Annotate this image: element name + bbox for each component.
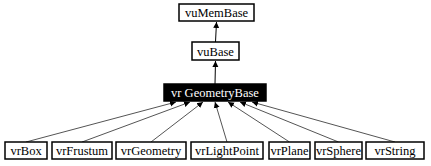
node-label: vrLightPoint xyxy=(195,144,259,158)
edge-vuBase-to-vuMemBase xyxy=(216,22,217,42)
node-label: vuMemBase xyxy=(185,6,249,20)
node-label: vrString xyxy=(375,144,417,158)
edge-vrPlane-to-vrGeometryBase xyxy=(228,102,290,142)
node-label: vrBox xyxy=(10,144,42,158)
node-label: vr GeometryBase xyxy=(171,86,259,100)
node-vrFrustum[interactable]: vrFrustum xyxy=(52,142,112,159)
node-label: vrFrustum xyxy=(56,144,108,158)
node-vrString[interactable]: vrString xyxy=(366,142,424,159)
inheritance-diagram: vuMemBasevuBasevr GeometryBasevrBoxvrFru… xyxy=(0,0,431,166)
node-label: vrSphere xyxy=(316,144,362,158)
node-vrPlane[interactable]: vrPlane xyxy=(269,142,310,159)
node-vrGeometry[interactable]: vrGeometry xyxy=(116,142,186,159)
node-label: vrPlane xyxy=(270,144,309,158)
node-vrSphere[interactable]: vrSphere xyxy=(315,142,362,159)
node-label: vrGeometry xyxy=(121,144,182,158)
edge-vrGeometryBase-to-vuBase xyxy=(215,61,216,84)
node-vuMemBase[interactable]: vuMemBase xyxy=(179,4,254,21)
edge-vrGeometry-to-vrGeometryBase xyxy=(151,102,203,142)
edge-vrFrustum-to-vrGeometryBase xyxy=(82,102,190,142)
edge-vrLightPoint-to-vrGeometryBase xyxy=(215,102,227,142)
edge-vrBox-to-vrGeometryBase xyxy=(26,102,176,142)
node-vrGeometryBase: vr GeometryBase xyxy=(164,84,266,101)
node-vrBox[interactable]: vrBox xyxy=(5,142,47,159)
node-label: vuBase xyxy=(197,45,234,59)
node-vuBase[interactable]: vuBase xyxy=(192,42,239,60)
node-vrLightPoint[interactable]: vrLightPoint xyxy=(191,142,263,159)
